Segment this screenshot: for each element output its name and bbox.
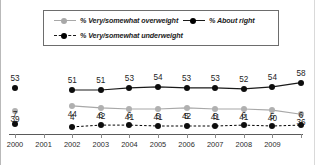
data-point-marker [184, 105, 190, 111]
data-point-label: 58 [296, 69, 305, 78]
data-point-marker [69, 87, 75, 93]
data-point-label: 5 [270, 112, 275, 121]
data-point-marker [269, 84, 275, 90]
x-axis-tick [129, 134, 130, 138]
x-axis-tick [72, 134, 73, 138]
data-point-marker [98, 87, 104, 93]
chart-legend: % Very/somewhat overweight % About right… [43, 10, 279, 46]
x-axis-tick [44, 134, 45, 138]
x-axis-tick-label: 2004 [121, 140, 137, 149]
x-axis-tick-label: 2007 [207, 140, 223, 149]
data-point-marker [155, 123, 161, 129]
x-axis-tick-label: 2003 [93, 140, 109, 149]
x-axis-line [9, 134, 303, 135]
data-point-label: 6 [242, 111, 247, 120]
data-point-label: 51 [68, 76, 77, 85]
data-point-marker [98, 122, 104, 128]
data-point-label: 5 [184, 112, 189, 121]
data-point-label: 4 [70, 113, 75, 122]
data-point-label: 54 [153, 73, 162, 82]
legend-item-about-right: % About right [183, 16, 255, 25]
data-point-marker [155, 84, 161, 90]
data-point-label: 53 [182, 74, 191, 83]
chart-frame: % Very/somewhat overweight % About right… [0, 0, 315, 165]
data-point-label: 52 [239, 75, 248, 84]
data-point-label: 51 [96, 76, 105, 85]
data-point-label: 53 [211, 74, 220, 83]
data-point-label: 53 [10, 74, 19, 83]
chart-plot-area: 5351515354535352545839444241414241414036… [1, 52, 315, 165]
x-axis-tick-label: 2000 [7, 140, 23, 149]
x-axis-tick [272, 134, 273, 138]
data-point-label: 6 [99, 111, 104, 120]
data-point-marker [126, 122, 132, 128]
data-point-marker [126, 85, 132, 91]
x-axis-tick [187, 134, 188, 138]
data-point-marker [298, 80, 304, 86]
x-axis-tick-label: 2002 [64, 140, 80, 149]
data-point-marker [12, 121, 18, 127]
x-axis-tick [301, 134, 302, 138]
x-axis-tick [15, 134, 16, 138]
legend-marker-underweight-icon [54, 31, 76, 40]
legend-item-underweight: % Very/somewhat underweight [54, 31, 183, 40]
data-point-marker [212, 123, 218, 129]
data-point-label: 7 [13, 110, 18, 119]
data-point-marker [69, 124, 75, 130]
x-axis-tick-label: 2009 [264, 140, 280, 149]
data-point-label: 5 [156, 112, 161, 121]
x-axis-tick [101, 134, 102, 138]
x-axis-tick [158, 134, 159, 138]
x-axis-tick-label: 2008 [236, 140, 252, 149]
x-axis-tick-label: 2001 [35, 140, 51, 149]
legend-label-underweight: % Very/somewhat underweight [80, 31, 183, 40]
data-point-marker [98, 105, 104, 111]
data-point-label: 5 [213, 112, 218, 121]
data-point-marker [269, 123, 275, 129]
x-axis-tick-label: 2006 [178, 140, 194, 149]
data-point-marker [241, 86, 247, 92]
x-axis-tick [215, 134, 216, 138]
legend-label-overweight: % Very/somewhat overweight [80, 16, 178, 25]
legend-marker-overweight-icon [54, 16, 76, 25]
data-point-label: 6 [299, 111, 304, 120]
data-point-marker [212, 85, 218, 91]
legend-label-about-right: % About right [209, 16, 255, 25]
legend-marker-about-right-icon [183, 16, 205, 25]
data-point-marker [184, 85, 190, 91]
data-point-marker [12, 85, 18, 91]
data-point-marker [298, 122, 304, 128]
data-point-marker [69, 103, 75, 109]
data-point-label: 54 [268, 73, 277, 82]
x-axis-tick [244, 134, 245, 138]
legend-item-overweight: % Very/somewhat overweight [54, 16, 178, 25]
x-axis-tick-label: 2005 [150, 140, 166, 149]
data-point-label: 53 [125, 74, 134, 83]
data-point-marker [184, 123, 190, 129]
data-point-marker [241, 122, 247, 128]
data-point-label: 6 [127, 111, 132, 120]
